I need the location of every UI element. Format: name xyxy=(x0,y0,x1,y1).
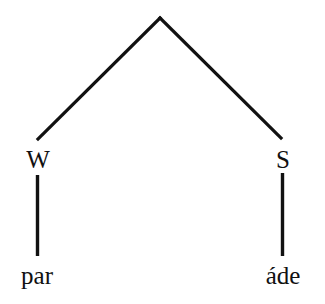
metrical-tree-diagram: W S par áde xyxy=(0,0,325,304)
branch-root-to-w xyxy=(38,18,160,139)
node-strong-label: S xyxy=(276,147,290,172)
node-weak-label: W xyxy=(26,147,50,172)
branch-root-to-s xyxy=(160,18,281,138)
terminal-par: par xyxy=(21,263,53,288)
terminal-ade: áde xyxy=(266,263,301,288)
